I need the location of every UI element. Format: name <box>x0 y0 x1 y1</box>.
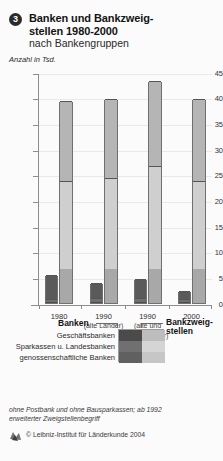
legend-swatch <box>142 341 165 352</box>
bar-banken <box>134 280 147 304</box>
bar-segment <box>149 81 161 167</box>
info-card: 3 Banken und Bankzweig- stellen 1980-200… <box>0 0 223 461</box>
bar-segment <box>60 269 72 303</box>
bar-segment <box>179 302 190 304</box>
x-axis-tick <box>169 305 170 309</box>
y-axis-tick <box>33 151 38 152</box>
legend-swatch <box>142 330 165 341</box>
bar-segment <box>46 302 57 303</box>
chart-footnote: ohne Postbank und ohne Bausparkassen; ab… <box>9 406 209 423</box>
copyright-text: © Leibniz-Institut für Länderkunde 2004 <box>26 431 145 438</box>
x-axis-tick <box>125 305 126 309</box>
title-block: Banken und Bankzweig- stellen 1980-2000 … <box>29 12 153 50</box>
footnote-line1: ohne Postbank und ohne Bausparkassen; ab… <box>9 406 209 415</box>
bar-segment <box>105 178 117 268</box>
y-axis-tick <box>33 253 38 254</box>
bar-segment <box>179 299 190 302</box>
legend-label: Geschäftsbanken <box>57 331 115 340</box>
x-axis-line <box>31 305 212 306</box>
legend-swatch <box>142 352 165 363</box>
gridline <box>39 74 212 75</box>
bar-segment <box>60 101 72 181</box>
y-axis-tick <box>33 74 38 75</box>
y-axis-tick <box>33 125 38 126</box>
chart-plot-area: 051015202530354045 19801990(alte Länder)… <box>0 66 223 318</box>
bar-segment <box>91 302 102 304</box>
copyright-row: © Leibniz-Institut für Länderkunde 2004 <box>9 428 145 440</box>
axis-units-label: Anzahl in Tsd. <box>0 50 223 64</box>
bar-segment <box>105 269 117 304</box>
bar-segment <box>193 269 205 304</box>
bar-segment <box>179 291 190 299</box>
footnote-line2: erweiterter Zweigstellenbegriff <box>9 415 209 424</box>
card-number-badge: 3 <box>9 13 22 26</box>
bar-bankzweigstellen <box>192 100 206 304</box>
bar-segment <box>149 166 161 268</box>
legend-swatch-grid <box>118 329 164 362</box>
legend-heading-bankzweigstellen-line2: stellen <box>166 327 221 337</box>
x-axis-tick <box>211 305 212 309</box>
y-axis-tick <box>33 99 38 100</box>
legend-swatch <box>119 341 142 352</box>
bar-segment <box>91 298 102 302</box>
bar-segment <box>135 279 146 297</box>
legend-leader-left <box>96 323 118 328</box>
legend-heading-bankzweigstellen: Bankzweig- stellen <box>166 318 221 337</box>
bar-banken <box>90 284 103 305</box>
legend-leader-right <box>141 323 163 328</box>
bar-segment <box>60 181 72 269</box>
legend-swatch <box>119 330 142 341</box>
bar-segment <box>91 283 102 298</box>
y-axis-tick <box>33 202 38 203</box>
y-axis-line <box>38 74 39 306</box>
y-axis-label: 45 <box>193 69 223 78</box>
bar-segment <box>46 275 57 299</box>
bar-segment <box>193 99 205 181</box>
x-axis-tick <box>39 305 40 309</box>
bar-segment <box>105 99 117 178</box>
x-axis-tick <box>81 305 82 309</box>
legend-label: Sparkassen u. Landesbanken <box>16 342 115 351</box>
bar-segment <box>46 299 57 302</box>
bar-bankzweigstellen <box>59 102 73 304</box>
chart-legend: Banken Bankzweig- stellen Geschäftsbanke… <box>0 318 223 376</box>
institute-logo-icon <box>9 428 22 440</box>
legend-swatch <box>119 352 142 363</box>
bar-banken <box>178 292 191 305</box>
y-axis-tick <box>33 176 38 177</box>
y-axis-tick <box>33 279 38 280</box>
card-header: 3 Banken und Bankzweig- stellen 1980-200… <box>0 0 223 50</box>
page-subtitle: nach Bankengruppen <box>29 37 153 50</box>
legend-label: genossenschaftliche Banken <box>20 353 115 362</box>
gridline <box>39 99 212 100</box>
y-axis-tick <box>33 228 38 229</box>
bar-bankzweigstellen <box>148 82 162 305</box>
legend-heading-banken: Banken <box>58 318 89 328</box>
bar-segment <box>135 302 146 304</box>
bar-segment <box>135 298 146 302</box>
page-title-line1: Banken und Bankzweig- <box>29 12 153 25</box>
y-axis-tick <box>33 305 38 306</box>
bar-segment <box>193 181 205 269</box>
bar-banken <box>45 276 58 304</box>
page-title-line2: stellen 1980-2000 <box>29 25 153 38</box>
bar-bankzweigstellen <box>104 100 118 304</box>
bar-segment <box>149 269 161 304</box>
